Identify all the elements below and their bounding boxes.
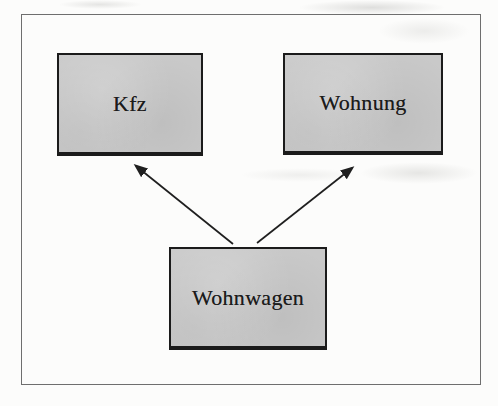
node-wohnwagen: Wohnwagen xyxy=(169,247,327,350)
scan-noise xyxy=(58,0,142,9)
node-wohnwagen-label: Wohnwagen xyxy=(192,287,304,309)
node-wohnung: Wohnung xyxy=(283,53,443,155)
scanned-page: Kfz Wohnung Wohnwagen xyxy=(0,0,498,406)
node-wohnung-label: Wohnung xyxy=(319,92,406,114)
node-kfz-label: Kfz xyxy=(113,93,147,115)
node-kfz: Kfz xyxy=(57,53,203,156)
scan-noise xyxy=(298,0,446,15)
